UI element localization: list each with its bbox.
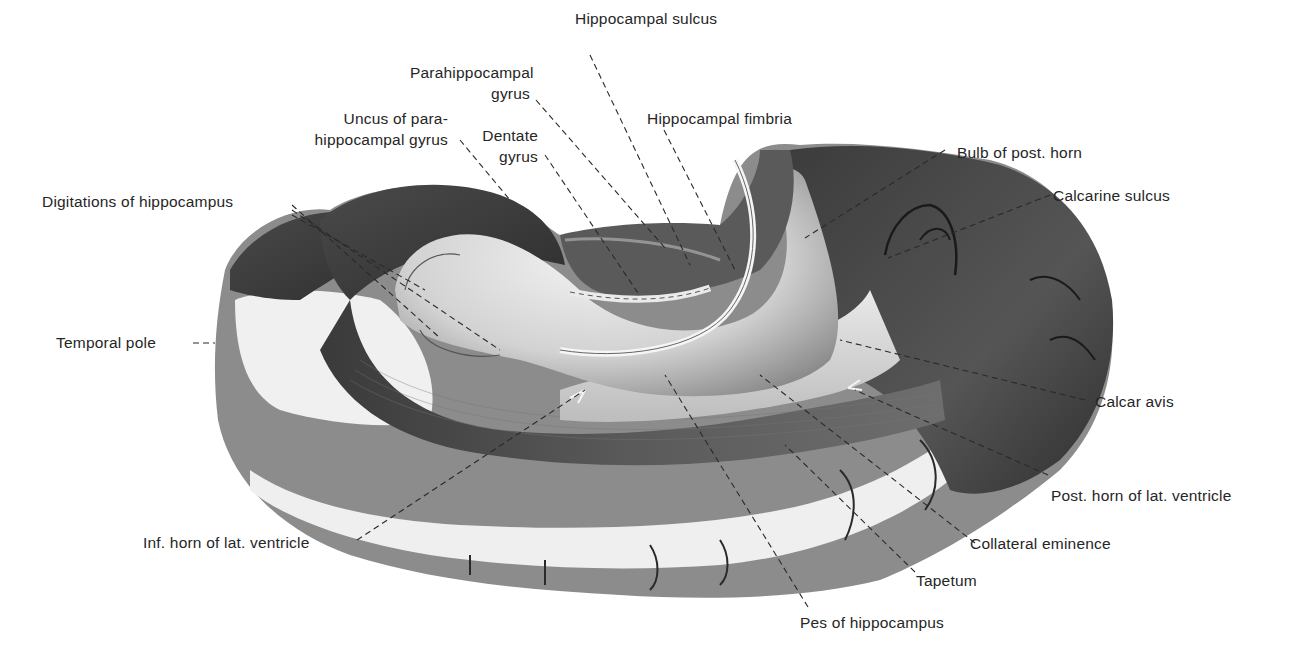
- label-uncus-line2: hippocampal gyrus: [270, 131, 448, 149]
- label-tapetum: Tapetum: [916, 572, 977, 590]
- label-collateral-eminence: Collateral eminence: [970, 535, 1111, 553]
- label-parahippocampal-gyrus-line1: Parahippocampal: [410, 64, 530, 82]
- label-inf-horn-lat-ventricle: Inf. horn of lat. ventricle: [143, 534, 310, 552]
- label-hippocampal-sulcus: Hippocampal sulcus: [575, 10, 717, 28]
- anatomical-figure: Hippocampal sulcus Parahippocampal gyrus…: [0, 0, 1314, 663]
- label-parahippocampal-gyrus-line2: gyrus: [410, 85, 530, 103]
- label-dentate-gyrus-line2: gyrus: [460, 148, 538, 166]
- label-dentate-gyrus-line1: Dentate: [460, 127, 538, 145]
- label-calcar-avis: Calcar avis: [1095, 393, 1174, 411]
- label-temporal-pole: Temporal pole: [56, 334, 156, 352]
- brain-specimen-illustration: [0, 0, 1314, 663]
- label-calcarine-sulcus: Calcarine sulcus: [1053, 187, 1170, 205]
- label-uncus-line1: Uncus of para-: [270, 110, 448, 128]
- label-hippocampal-fimbria: Hippocampal fimbria: [647, 110, 792, 128]
- label-bulb-post-horn: Bulb of post. horn: [957, 144, 1082, 162]
- label-digitations-of-hippocampus: Digitations of hippocampus: [42, 193, 233, 211]
- label-pes-of-hippocampus: Pes of hippocampus: [800, 614, 944, 632]
- label-post-horn-lat-ventricle: Post. horn of lat. ventricle: [1051, 487, 1232, 505]
